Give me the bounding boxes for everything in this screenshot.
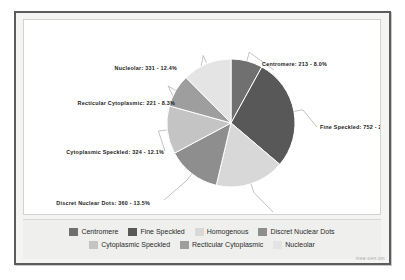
legend-label: Cytoplasmic Speckled [101, 241, 170, 248]
pie-slices [167, 59, 295, 187]
leader-line-discret-nuclear-dots [164, 173, 193, 200]
legend-label: Recticular Cytoplasmic [192, 241, 263, 248]
pie-chart-svg [24, 20, 381, 215]
legend-item-homogenous[interactable]: Homogenous [195, 228, 249, 236]
slice-label-recticular-cytoplasmic: Recticular Cytoplasmic: 221 - 8.3% [78, 101, 175, 106]
slice-label-discret-nuclear-dots: Discret Nuclear Dots: 360 - 13.5% [56, 201, 150, 206]
slice-label-nucleolar: Nucleolar: 331 - 12.4% [115, 66, 177, 71]
legend-swatch-icon [69, 228, 78, 236]
legend-swatch-icon [89, 241, 98, 249]
legend-swatch-icon [273, 241, 282, 249]
legend-label: Discret Nuclear Dots [270, 228, 334, 235]
legend-label: Centromere [81, 228, 118, 235]
leader-line-cytoplasmic-speckled [158, 130, 168, 151]
legend-swatch-icon [128, 228, 137, 236]
legend-swatch-icon [180, 241, 189, 249]
legend-item-recticular-cytoplasmic[interactable]: Recticular Cytoplasmic [180, 241, 263, 249]
legend-item-centromere[interactable]: Centromere [69, 228, 118, 236]
pie-chart-plot-area: Centromere: 213 - 8.0% Fine Speckled: 75… [23, 19, 381, 215]
legend-row-1: CentromereFine SpeckledHomogenousDiscret… [23, 225, 381, 238]
slice-label-homogenous: Homogenous: 467 - 17.5% [263, 214, 336, 215]
legend-item-discret-nuclear-dots[interactable]: Discret Nuclear Dots [258, 228, 334, 236]
chart-frame: Centromere: 213 - 8.0% Fine Speckled: 75… [14, 11, 391, 265]
legend-label: Fine Speckled [140, 228, 184, 235]
slice-label-centromere: Centromere: 213 - 8.0% [262, 62, 327, 67]
legend-item-fine-speckled[interactable]: Fine Speckled [128, 228, 184, 236]
legend-row-2: Cytoplasmic SpeckledRecticular Cytoplasm… [23, 238, 381, 251]
legend-swatch-icon [195, 228, 204, 236]
legend-label: Nucleolar [285, 241, 315, 248]
slice-label-cytoplasmic-speckled: Cytoplasmic Speckled: 324 - 12.1% [66, 150, 164, 155]
legend-label: Homogenous [207, 228, 249, 235]
leader-line-fine-speckled [293, 110, 317, 127]
chart-legend: CentromereFine SpeckledHomogenousDiscret… [23, 219, 381, 259]
legend-swatch-icon [258, 228, 267, 236]
leader-line-homogenous [251, 183, 273, 212]
legend-item-nucleolar[interactable]: Nucleolar [273, 241, 315, 249]
legend-item-cytoplasmic-speckled[interactable]: Cytoplasmic Speckled [89, 241, 170, 249]
watermark: mea-oen.om [356, 256, 385, 261]
slice-label-fine-speckled: Fine Speckled: 752 - 28.2% [320, 125, 381, 130]
